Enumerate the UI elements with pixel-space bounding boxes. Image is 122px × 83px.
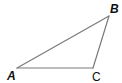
vertex-label-b: B <box>110 2 119 16</box>
vertex-label-c: C <box>92 70 101 83</box>
triangle-diagram: A B C <box>0 0 122 83</box>
vertex-label-a: A <box>6 69 16 83</box>
